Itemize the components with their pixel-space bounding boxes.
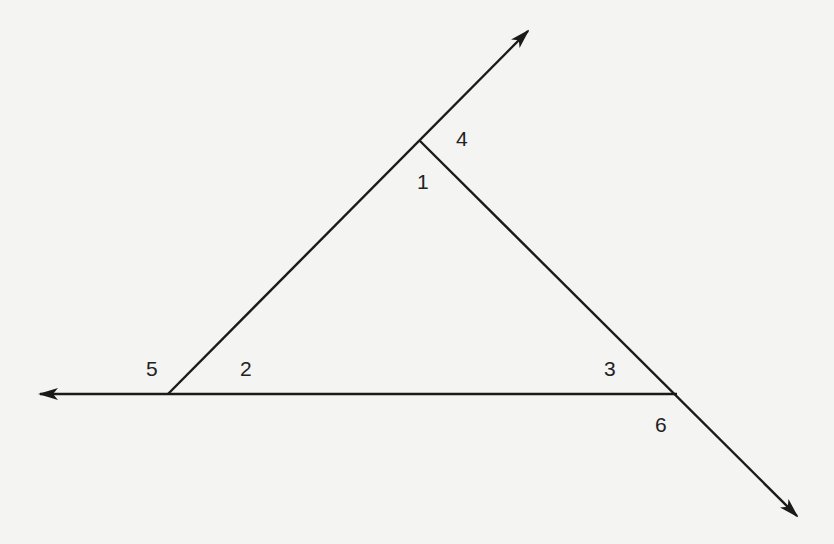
angle-label-2: 2 xyxy=(240,358,252,379)
angle-label-6: 6 xyxy=(655,414,667,435)
triangle-diagram xyxy=(0,0,834,544)
angle-label-1: 1 xyxy=(417,171,429,192)
angle-label-4: 4 xyxy=(456,128,468,149)
ray-upper-right xyxy=(168,31,528,394)
angle-label-5: 5 xyxy=(146,358,158,379)
angle-label-3: 3 xyxy=(604,358,616,379)
ray-lower-right xyxy=(420,141,797,516)
